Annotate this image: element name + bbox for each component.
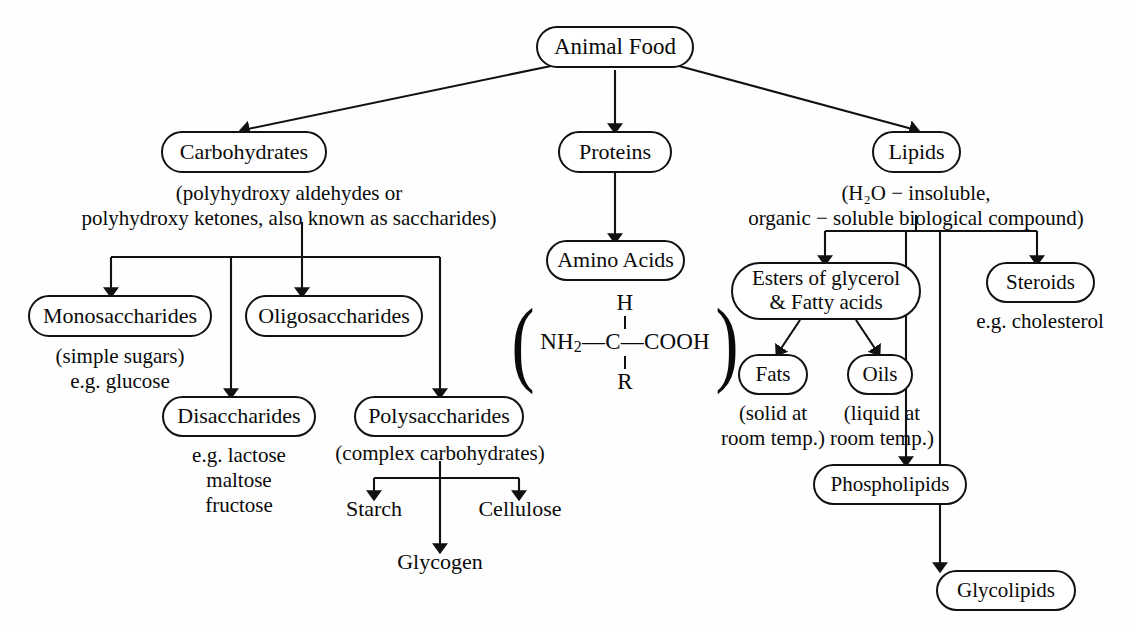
- formula-backbone: NH2—C—COOH: [540, 329, 710, 356]
- node-esters-of-glycerol[interactable]: Esters of glycerol & Fatty acids: [731, 262, 921, 320]
- node-amino-acids[interactable]: Amino Acids: [546, 240, 685, 281]
- caption-steroids: e.g. cholesterol: [962, 309, 1118, 334]
- edge-to-fats: [778, 320, 800, 353]
- flowchart-canvas: Animal Food Carbohydrates Proteins Lipid…: [0, 0, 1134, 632]
- edge-root-to-carbohydrates: [243, 66, 551, 130]
- node-phospholipids[interactable]: Phospholipids: [813, 464, 967, 505]
- formula-amino-subscript: 2: [574, 338, 582, 355]
- node-polysaccharides-label: Polysaccharides: [368, 404, 510, 429]
- formula-close-paren: ): [715, 307, 738, 376]
- formula-bottom-bond: [624, 356, 626, 369]
- edge-to-oils: [856, 320, 878, 353]
- formula-bottom-group: R: [617, 369, 633, 395]
- caption-carbohydrates: (polyhydroxy aldehydes or polyhydroxy ke…: [74, 181, 504, 231]
- amino-acid-formula: ( H NH2—C—COOH R ): [520, 288, 730, 396]
- node-carbohydrates-label: Carbohydrates: [180, 140, 308, 165]
- node-oils[interactable]: Oils: [847, 354, 913, 395]
- node-lipids[interactable]: Lipids: [872, 131, 961, 173]
- node-monosaccharides[interactable]: Monosaccharides: [28, 295, 212, 337]
- formula-top-bond: [624, 316, 626, 329]
- node-disaccharides-label: Disaccharides: [177, 404, 300, 429]
- node-fats-label: Fats: [755, 363, 790, 387]
- node-proteins-label: Proteins: [579, 140, 651, 165]
- caption-lipids: (H₂O − insoluble, organic − soluble biol…: [743, 181, 1089, 231]
- node-glycolipids[interactable]: Glycolipids: [936, 570, 1076, 611]
- node-polysaccharides[interactable]: Polysaccharides: [354, 396, 524, 437]
- node-oils-label: Oils: [862, 363, 897, 387]
- node-esters-of-glycerol-label: Esters of glycerol & Fatty acids: [752, 267, 900, 314]
- node-proteins[interactable]: Proteins: [558, 131, 672, 173]
- edge-root-to-lipids: [679, 66, 916, 130]
- formula-amino-group: NH: [540, 329, 574, 354]
- leaf-starch: Starch: [314, 496, 434, 522]
- formula-top-group: H: [617, 290, 634, 316]
- caption-polysaccharides: (complex carbohydrates): [330, 441, 550, 466]
- node-amino-acids-label: Amino Acids: [557, 248, 674, 273]
- node-animal-food[interactable]: Animal Food: [536, 26, 694, 68]
- caption-oils: (liquid at room temp.): [818, 401, 946, 451]
- node-disaccharides[interactable]: Disaccharides: [162, 396, 316, 437]
- node-lipids-label: Lipids: [888, 140, 944, 165]
- node-glycolipids-label: Glycolipids: [957, 579, 1055, 603]
- node-monosaccharides-label: Monosaccharides: [43, 304, 197, 329]
- node-steroids[interactable]: Steroids: [986, 262, 1095, 303]
- caption-disaccharides: e.g. lactose maltose fructose: [161, 443, 317, 519]
- formula-body: H NH2—C—COOH R: [540, 290, 710, 395]
- caption-monosaccharides: (simple sugars) e.g. glucose: [30, 344, 210, 394]
- node-carbohydrates[interactable]: Carbohydrates: [161, 131, 327, 173]
- node-oligosaccharides-label: Oligosaccharides: [258, 304, 410, 329]
- node-fats[interactable]: Fats: [738, 354, 808, 395]
- formula-open-paren: (: [512, 307, 535, 376]
- node-oligosaccharides[interactable]: Oligosaccharides: [245, 295, 423, 337]
- node-animal-food-label: Animal Food: [554, 34, 676, 60]
- leaf-cellulose: Cellulose: [459, 496, 581, 522]
- node-phospholipids-label: Phospholipids: [830, 473, 949, 497]
- node-steroids-label: Steroids: [1006, 271, 1075, 295]
- leaf-glycogen: Glycogen: [378, 549, 502, 575]
- formula-carboxyl-group: —C—COOH: [582, 329, 710, 354]
